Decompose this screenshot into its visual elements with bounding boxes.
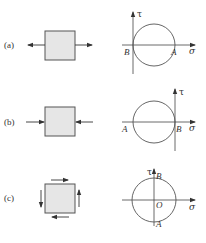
panel-b: (b) τ σ A B <box>4 87 196 151</box>
panel-c-label: (c) <box>4 193 14 203</box>
panel-a: (a) τ σ B A <box>4 9 196 74</box>
mohr-circle-c: τ σ B O A <box>122 167 196 229</box>
point-b-label: B <box>176 124 182 134</box>
sigma-label: σ <box>189 202 196 212</box>
origin-label: O <box>156 200 163 210</box>
mohr-circle-a: τ σ B A <box>122 9 196 74</box>
point-a-label: A <box>121 124 128 134</box>
sigma-label: σ <box>189 123 196 133</box>
panel-c: (c) τ σ B O A <box>4 167 196 229</box>
element-square <box>45 31 75 60</box>
stress-element-a <box>28 31 92 60</box>
tau-label: τ <box>147 167 152 177</box>
element-square <box>45 184 75 213</box>
mohr-circle-diagram: (a) τ σ B A (b) τ σ A <box>0 0 206 243</box>
panel-b-label: (b) <box>4 117 15 127</box>
point-b-label: B <box>156 171 162 181</box>
panel-a-label: (a) <box>4 40 14 50</box>
element-square <box>45 107 75 136</box>
point-b-label: B <box>124 47 130 57</box>
tau-label: τ <box>137 9 142 19</box>
sigma-label: σ <box>189 46 196 56</box>
mohr-circle-b: τ σ A B <box>121 87 196 151</box>
stress-element-c <box>41 180 79 217</box>
point-a-label: A <box>170 47 177 57</box>
point-a-label: A <box>155 219 162 229</box>
stress-element-b <box>26 107 93 136</box>
tau-label: τ <box>179 87 184 97</box>
